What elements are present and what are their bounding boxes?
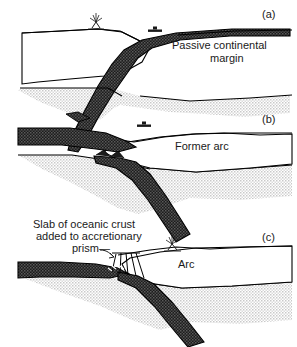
- panel-letter-c: (c): [262, 231, 275, 243]
- panel-c-label: Arc: [178, 258, 195, 270]
- panel-c-annotation-line1: Slab of oceanic crust: [33, 218, 135, 230]
- cross-section-svg: [0, 0, 297, 347]
- panel-c-graphic: [18, 235, 292, 347]
- ship-icon: [137, 122, 151, 127]
- panel-b-label: Former arc: [175, 140, 229, 152]
- panel-a-label-line2: margin: [210, 52, 244, 64]
- panel-letter-b: (b): [262, 113, 275, 125]
- panel-c-annotation-line2: added to accretionary: [36, 230, 142, 242]
- panel-c-annotation-line3: prism—: [72, 242, 110, 254]
- panel-a-label-line1: Passive continental: [172, 39, 267, 51]
- volcano-icon: [88, 13, 104, 29]
- ship-icon: [148, 27, 162, 32]
- figure-canvas: (a) Passive continental margin (b) Forme…: [0, 0, 297, 347]
- panel-letter-a: (a): [262, 8, 275, 20]
